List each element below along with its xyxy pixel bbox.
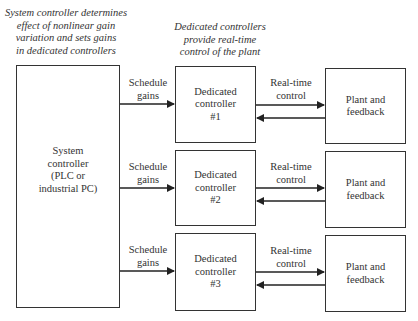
- real-time-control-label-1: Real-time control: [262, 77, 320, 102]
- system-controller-box: System controller (PLC or industrial PC): [16, 65, 120, 308]
- dedicated-controller-3: Dedicated controller #3: [175, 233, 256, 311]
- plant-feedback-2: Plant and feedback: [325, 151, 406, 228]
- real-time-control-label-2: Real-time control: [262, 161, 320, 186]
- dedicated-controller-1: Dedicated controller #1: [175, 66, 256, 143]
- plant-feedback-2-label: Plant and feedback: [346, 177, 385, 202]
- plant-feedback-3-label: Plant and feedback: [346, 261, 385, 286]
- dedicated-controller-2-label: Dedicated controller #2: [194, 169, 237, 207]
- dedicated-controller-3-label: Dedicated controller #3: [194, 253, 237, 291]
- schedule-gains-label-1: Schedule gains: [124, 77, 172, 102]
- dedicated-controller-2: Dedicated controller #2: [175, 150, 256, 226]
- dedicated-controller-1-label: Dedicated controller #1: [194, 86, 237, 124]
- schedule-gains-label-2: Schedule gains: [124, 161, 172, 186]
- plant-feedback-1: Plant and feedback: [325, 68, 406, 144]
- real-time-control-label-3: Real-time control: [262, 245, 320, 270]
- system-controller-label: System controller (PLC or industrial PC): [39, 145, 98, 195]
- plant-feedback-3: Plant and feedback: [325, 235, 406, 312]
- plant-feedback-1-label: Plant and feedback: [346, 94, 385, 119]
- schedule-gains-label-3: Schedule gains: [124, 244, 172, 269]
